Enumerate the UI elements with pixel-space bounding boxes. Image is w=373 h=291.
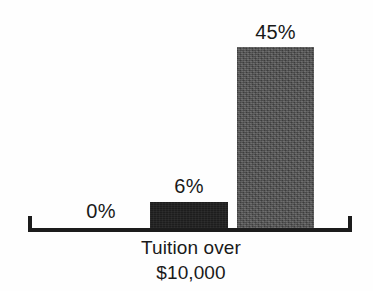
bar-value-label-2: 45% [236, 21, 315, 43]
plot-area: 0% 6% 45% Tuition over $10,000 [0, 0, 373, 291]
bar-six-percent [150, 202, 228, 228]
x-axis-baseline [28, 228, 352, 232]
bar-value-label-1: 6% [150, 175, 228, 197]
bar-chart: 0% 6% 45% Tuition over $10,000 [0, 0, 373, 291]
x-axis-caption-line-1: Tuition over [96, 235, 286, 260]
bar-value-label-0: 0% [62, 200, 140, 222]
x-axis-caption-line-2: $10,000 [96, 260, 286, 285]
bar-forty-five-percent [237, 47, 314, 228]
x-axis-tick-left [28, 216, 32, 229]
x-axis-tick-right [348, 216, 352, 229]
x-axis-caption: Tuition over $10,000 [96, 235, 286, 285]
